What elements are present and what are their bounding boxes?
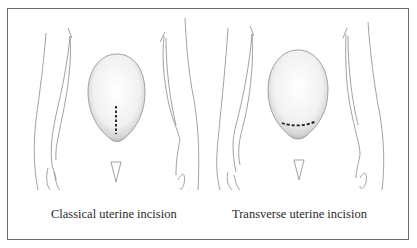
- pubic-mark-left: [111, 162, 121, 182]
- caption-transverse: Transverse uterine incision: [232, 207, 367, 222]
- torso-left-side-2: [217, 26, 254, 190]
- torso-right-side-2: [343, 22, 384, 190]
- panel-transverse: [217, 22, 384, 190]
- panel-classical: [34, 18, 199, 190]
- torso-left-side: [34, 28, 72, 190]
- torso-right-side: [160, 18, 199, 190]
- uterus-left: [88, 54, 145, 142]
- caption-classical: Classical uterine incision: [51, 207, 177, 222]
- pubic-mark-right: [294, 160, 304, 180]
